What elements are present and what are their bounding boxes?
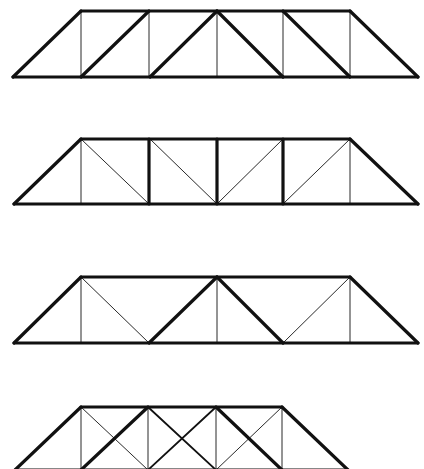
truss-diagrams-canvas [0, 0, 424, 469]
background [0, 0, 424, 469]
